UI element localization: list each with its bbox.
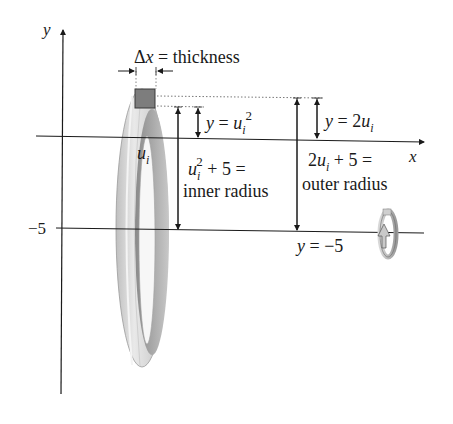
y-axis-label: y (41, 20, 51, 39)
inner-height-arrow (194, 107, 202, 137)
inner-radius-text: inner radius (183, 181, 268, 201)
outer-height-arrow (312, 98, 322, 138)
inner-radius-formula: ui2 + 5 = (188, 154, 246, 183)
outer-height-label: y = 2ui (323, 111, 374, 135)
outer-radius-arrow (293, 98, 301, 230)
outer-radius-formula: 2ui + 5 = (308, 150, 372, 174)
axis-of-rotation-line (56, 228, 424, 233)
washer-ring (116, 89, 169, 367)
outer-radius-text: outer radius (302, 174, 387, 194)
thickness-slice (135, 89, 155, 108)
neg5-tick-label: −5 (28, 219, 46, 238)
inner-height-label: y = ui2 (204, 108, 252, 137)
thickness-label: Δx = thickness (134, 47, 240, 67)
thickness-arrows (118, 67, 173, 75)
y-axis (61, 30, 63, 394)
x-axis-label: x (408, 147, 417, 166)
x-axis (36, 136, 424, 142)
axis-of-rotation-label: y = −5 (295, 236, 343, 256)
inner-radius-arrow (174, 107, 182, 229)
washer-diagram: y x −5 Δx = thickness y = ui2 y = 2ui ui… (0, 0, 453, 424)
